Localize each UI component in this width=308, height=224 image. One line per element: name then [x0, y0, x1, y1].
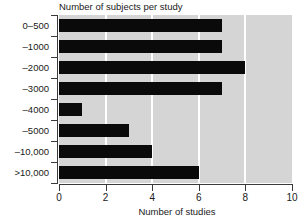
plot-area [59, 15, 292, 183]
y-axis-tick [51, 99, 57, 100]
y-axis-tick [51, 57, 57, 58]
bar-slot [59, 162, 292, 183]
bar-chart: Number of subjects per study 0–500–1000–… [0, 0, 308, 224]
bar-slot [59, 15, 292, 36]
x-axis-label: 2 [91, 192, 121, 204]
x-axis-tick [59, 185, 60, 191]
y-axis-label: –1000 [23, 42, 49, 52]
bar [59, 145, 152, 158]
y-axis-tick [51, 141, 57, 142]
x-axis-tick [152, 185, 153, 191]
chart-title: Number of subjects per study [59, 1, 183, 13]
y-axis-tick [51, 78, 57, 79]
x-axis-label: 10 [277, 192, 307, 204]
bar [59, 82, 222, 95]
x-axis-title: Number of studies [0, 206, 308, 218]
x-axis-label: 6 [184, 192, 214, 204]
y-axis-label: 0–500 [23, 21, 49, 31]
y-axis-line [57, 15, 58, 184]
x-axis-tick [199, 185, 200, 191]
bar [59, 166, 199, 179]
y-axis-tick [51, 162, 57, 163]
x-axis-label: 0 [44, 192, 74, 204]
bar-slot [59, 57, 292, 78]
x-axis-label: 4 [137, 192, 167, 204]
bar [59, 19, 222, 32]
x-axis-tick [106, 185, 107, 191]
bar [59, 61, 245, 74]
y-axis-label: –2000 [23, 63, 49, 73]
y-axis-tick [51, 183, 57, 184]
y-axis-label: –5000 [23, 126, 49, 136]
y-axis-tick [51, 36, 57, 37]
y-axis-tick [51, 15, 57, 16]
bar-slot [59, 141, 292, 162]
bar [59, 124, 129, 137]
x-axis-tick [245, 185, 246, 191]
bar [59, 103, 82, 116]
x-axis-line [59, 184, 293, 185]
y-axis-label: –10,000 [15, 147, 49, 157]
bar-slot [59, 78, 292, 99]
x-axis-tick [292, 185, 293, 191]
y-axis-label: –3000 [23, 84, 49, 94]
y-axis-label: –4000 [23, 105, 49, 115]
bar-slot [59, 36, 292, 57]
bar [59, 40, 222, 53]
x-axis-label: 8 [230, 192, 260, 204]
y-axis-label: >10,000 [14, 168, 49, 178]
bar-slot [59, 99, 292, 120]
y-axis-tick [51, 120, 57, 121]
bar-slot [59, 120, 292, 141]
